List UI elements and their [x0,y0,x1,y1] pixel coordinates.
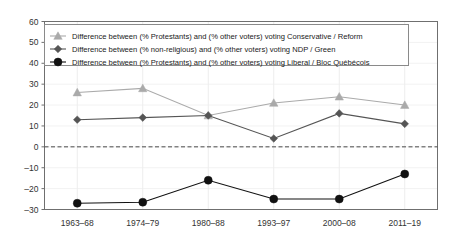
data-point-marker [401,170,409,178]
legend-label: Difference between (% Protestants) and (… [72,58,370,67]
data-point-marker [204,176,212,184]
x-tick-label: 1993–97 [257,218,290,228]
data-point-marker [54,58,62,66]
legend-entries: Difference between (% Protestants) and (… [50,32,370,67]
x-tick-label: 1963–68 [61,218,94,228]
y-tick-label: 40 [29,58,39,68]
y-tick-label: –10 [24,163,38,173]
data-point-marker [270,195,278,203]
y-tick-label: –20 [24,184,38,194]
y-tick-label: –30 [24,205,38,215]
x-tick-label: 1974–79 [126,218,159,228]
y-tick-label: 30 [29,79,39,89]
x-tick-label: 2011–19 [389,218,422,228]
chart-legend: Difference between (% Protestants) and (… [45,25,409,68]
y-tick-label: 10 [29,121,39,131]
x-tick-label: 2000–08 [323,218,356,228]
data-point-marker [139,198,147,206]
line-chart: –30–20–100102030405060 1963–681974–79198… [0,0,476,249]
y-tick-label: 20 [29,100,39,110]
y-tick-label: 60 [29,17,39,27]
y-tick-label: 50 [29,37,39,47]
x-tick-label: 1980–88 [192,218,225,228]
legend-label: Difference between (% non-religious) and… [72,45,336,54]
chart-container: –30–20–100102030405060 1963–681974–79198… [0,0,476,249]
data-point-marker [73,199,81,207]
legend-label: Difference between (% Protestants) and (… [72,32,363,41]
y-tick-label: 0 [34,142,39,152]
data-point-marker [335,195,343,203]
